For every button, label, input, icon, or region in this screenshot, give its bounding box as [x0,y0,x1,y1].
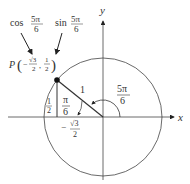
sin-callout-numerator: 5π [71,14,81,24]
angle-arc-pi6 [78,101,82,115]
hypotenuse-label: 1 [80,84,85,95]
point-x-denominator: 2 [32,65,36,73]
adjacent-sign: − [61,122,66,132]
adjacent-denominator: 2 [73,130,77,139]
unit-circle-diagram: x y 5π 6 1 π 6 1 2 − √3 2 cos 5π 6 sin 5… [0,0,190,184]
sin-callout-denominator: 6 [74,24,79,34]
paren-close: ) [51,57,56,74]
point-name: P [8,59,15,70]
cos-callout-denominator: 6 [34,24,39,34]
adjacent-numerator: √3 [70,119,78,128]
comma: , [39,61,41,70]
angle-arc-5pi6 [92,100,120,117]
x-axis-label: x [177,111,183,123]
cos-callout-numerator: 5π [31,14,41,24]
ref-angle-denominator: 6 [63,106,68,117]
opposite-denominator: 2 [47,106,51,115]
point-y-denominator: 2 [45,65,49,73]
point-y-numerator: 1 [45,56,49,64]
point-x-sign: − [23,60,28,69]
angle-label-denominator: 6 [120,95,125,106]
sin-callout-fn: sin [55,17,67,28]
paren-open: ( [17,57,22,74]
sin-arrow [56,33,62,54]
point-x-numerator: √3 [29,56,37,64]
ref-angle-numerator: π [63,94,68,105]
cos-arrow [21,33,32,54]
cos-callout-fn: cos [10,17,23,28]
point-p [54,77,60,83]
y-axis-label: y [99,4,105,16]
opposite-numerator: 1 [47,97,51,106]
angle-label-numerator: 5π [117,83,127,94]
